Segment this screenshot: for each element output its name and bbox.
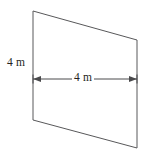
side-length-label: 4 m [7,57,25,69]
parallelogram-figure: 4 m 4 m [0,0,146,153]
base-length-label: 4 m [72,72,94,84]
dimension-arrowhead-right [129,76,137,82]
dimension-arrowhead-left [33,76,41,82]
